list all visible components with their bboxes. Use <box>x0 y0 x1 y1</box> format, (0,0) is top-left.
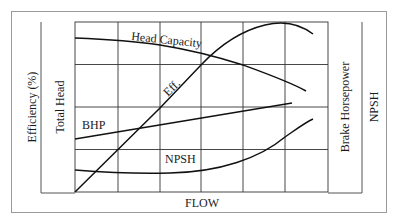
bhp-label: BHP <box>82 118 106 132</box>
efficiency-axis-title: Efficiency (%) <box>25 72 39 143</box>
pump-performance-diagram: Head Capacity Eff. BHP NPSH Efficiency (… <box>0 0 393 221</box>
bhp-axis-title: Brake Horsepower <box>338 62 352 152</box>
npsh-label: NPSH <box>165 152 196 166</box>
eff-label: Eff. <box>160 76 183 99</box>
bhp-curve <box>75 103 292 139</box>
npsh-axis-title: NPSH <box>367 91 381 122</box>
head-capacity-label: Head Capacity <box>131 29 203 50</box>
total-head-axis-title: Total Head <box>53 81 67 134</box>
flow-axis-title: FLOW <box>185 196 220 210</box>
